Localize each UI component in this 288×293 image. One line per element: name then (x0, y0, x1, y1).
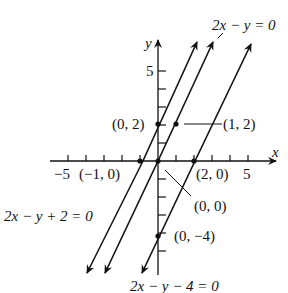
label-point-0-0: (0, 0) (194, 198, 227, 215)
equation-label-2x-y-minus-4: 2x − y − 4 = 0 (130, 278, 219, 293)
label-point-0-2: (0, 2) (112, 116, 145, 133)
coordinate-plane-figure: x −5 5 y 5 (0, 0, 288, 293)
label-point-2-0: (2, 0) (196, 166, 229, 183)
equation-label-2x-y: 2x − y = 0 (212, 17, 276, 33)
point-2-0 (191, 158, 196, 163)
x-tick-label-neg5: −5 (54, 166, 70, 182)
point-0-2 (155, 121, 160, 126)
label-point-neg1-0: (−1, 0) (79, 166, 120, 183)
x-axis-label: x (271, 144, 279, 160)
y-axis-label: y (143, 35, 152, 51)
point-neg1-0 (137, 158, 142, 163)
diagram-svg: x −5 5 y 5 (0, 0, 288, 293)
x-tick-label-5: 5 (243, 166, 251, 182)
y-tick-label-5: 5 (146, 63, 154, 79)
label-point-0-neg4: (0, −4) (174, 228, 215, 245)
point-0-0 (155, 158, 160, 163)
label-point-1-2: (1, 2) (223, 116, 256, 133)
equation-label-2x-y-plus-2: 2x − y + 2 = 0 (4, 208, 93, 224)
point-0-neg4 (155, 233, 160, 238)
point-1-2 (173, 121, 178, 126)
